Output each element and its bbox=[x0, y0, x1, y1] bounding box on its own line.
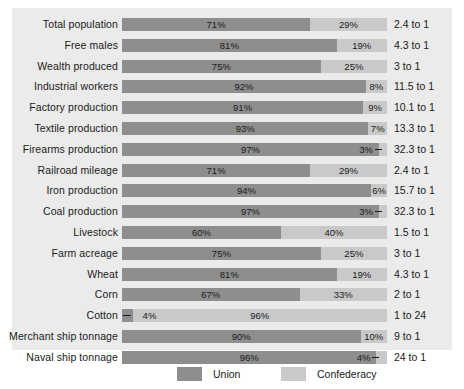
ratio-label: 2.4 to 1 bbox=[394, 14, 429, 35]
value-label-union: 81% bbox=[122, 268, 337, 281]
row-label: Firearms production bbox=[0, 139, 118, 160]
legend-swatch-union bbox=[177, 367, 202, 381]
row-label: Railroad mileage bbox=[0, 160, 118, 181]
ratio-label: 32.3 to 1 bbox=[394, 201, 435, 222]
chart-row: Coal production97%3%32.3 to 1 bbox=[0, 201, 464, 222]
chart-row: Iron production94%6%15.7 to 1 bbox=[0, 180, 464, 201]
ratio-label: 13.3 to 1 bbox=[394, 118, 435, 139]
ratio-label: 3 to 1 bbox=[394, 56, 420, 77]
leader-line bbox=[123, 315, 131, 316]
value-label-confederacy: 8% bbox=[366, 80, 387, 93]
chart-row: Railroad mileage71%29%2.4 to 1 bbox=[0, 160, 464, 181]
ratio-label: 9 to 1 bbox=[394, 326, 420, 347]
value-label-union: 97% bbox=[122, 143, 379, 156]
value-label-confederacy: 19% bbox=[337, 39, 387, 52]
value-label-confederacy: 33% bbox=[300, 288, 387, 301]
legend-item-union: Union bbox=[177, 363, 240, 385]
row-label: Livestock bbox=[0, 222, 118, 243]
value-label-confederacy: 10% bbox=[361, 330, 388, 343]
ratio-label: 32.3 to 1 bbox=[394, 139, 435, 160]
value-label-confederacy: 4% bbox=[340, 351, 370, 364]
civil-war-resources-chart: Total population71%29%2.4 to 1Free males… bbox=[0, 0, 464, 389]
value-label-confederacy: 19% bbox=[337, 268, 387, 281]
value-label-union: 96% bbox=[122, 351, 376, 364]
chart-row: Corn67%33%2 to 1 bbox=[0, 284, 464, 305]
chart-row: Farm acreage75%25%3 to 1 bbox=[0, 243, 464, 264]
ratio-label: 2 to 1 bbox=[394, 284, 420, 305]
value-label-union: 71% bbox=[122, 18, 310, 31]
row-label: Industrial workers bbox=[0, 76, 118, 97]
ratio-label: 4.3 to 1 bbox=[394, 264, 429, 285]
legend-label-confederacy: Confederacy bbox=[317, 368, 377, 380]
row-label: Wealth produced bbox=[0, 56, 118, 77]
chart-row: Firearms production97%3%32.3 to 1 bbox=[0, 139, 464, 160]
value-label-union: 91% bbox=[122, 101, 363, 114]
legend-item-confederacy: Confederacy bbox=[281, 363, 377, 385]
row-label: Merchant ship tonnage bbox=[0, 326, 118, 347]
leader-line bbox=[375, 211, 382, 212]
value-label-confederacy: 25% bbox=[321, 60, 387, 73]
value-label-union: 75% bbox=[122, 247, 321, 260]
value-label-confederacy: 3% bbox=[343, 143, 373, 156]
legend-swatch-confederacy bbox=[281, 367, 306, 381]
ratio-label: 3 to 1 bbox=[394, 243, 420, 264]
chart-row: Merchant ship tonnage90%10%9 to 1 bbox=[0, 326, 464, 347]
value-label-union: 81% bbox=[122, 39, 337, 52]
chart-row: Factory production91%9%10.1 to 1 bbox=[0, 97, 464, 118]
chart-row: Total population71%29%2.4 to 1 bbox=[0, 14, 464, 35]
row-label: Total population bbox=[0, 14, 118, 35]
chart-row: Livestock60%40%1.5 to 1 bbox=[0, 222, 464, 243]
value-label-confederacy: 6% bbox=[371, 184, 387, 197]
row-label: Wheat bbox=[0, 264, 118, 285]
value-label-union: 90% bbox=[122, 330, 361, 343]
chart-row: Wealth produced75%25%3 to 1 bbox=[0, 56, 464, 77]
ratio-label: 10.1 to 1 bbox=[394, 97, 435, 118]
legend-label-union: Union bbox=[213, 368, 240, 380]
ratio-label: 15.7 to 1 bbox=[394, 180, 435, 201]
value-label-union: 67% bbox=[122, 288, 300, 301]
value-label-confederacy: 40% bbox=[281, 226, 387, 239]
value-label-union: 97% bbox=[122, 205, 379, 218]
row-label: Farm acreage bbox=[0, 243, 118, 264]
value-label-confederacy: 9% bbox=[363, 101, 387, 114]
row-label: Cotton bbox=[0, 305, 118, 326]
chart-row: Free males81%19%4.3 to 1 bbox=[0, 35, 464, 56]
chart-row: Wheat81%19%4.3 to 1 bbox=[0, 264, 464, 285]
ratio-label: 4.3 to 1 bbox=[394, 35, 429, 56]
chart-legend: Union Confederacy bbox=[0, 363, 464, 385]
row-label: Coal production bbox=[0, 201, 118, 222]
ratio-label: 2.4 to 1 bbox=[394, 160, 429, 181]
ratio-label: 11.5 to 1 bbox=[394, 76, 434, 97]
leader-line bbox=[372, 357, 379, 358]
chart-row: Textile production93%7%13.3 to 1 bbox=[0, 118, 464, 139]
value-label-union: 71% bbox=[122, 164, 310, 177]
row-label: Free males bbox=[0, 35, 118, 56]
row-label: Corn bbox=[0, 284, 118, 305]
value-label-union: 93% bbox=[122, 122, 368, 135]
bar-rows-container: Total population71%29%2.4 to 1Free males… bbox=[0, 0, 464, 389]
value-label-confederacy: 96% bbox=[133, 309, 387, 322]
ratio-label: 1.5 to 1 bbox=[394, 222, 429, 243]
chart-row: Industrial workers92%8%11.5 to 1 bbox=[0, 76, 464, 97]
row-label: Factory production bbox=[0, 97, 118, 118]
value-label-confederacy: 7% bbox=[368, 122, 387, 135]
value-label-confederacy: 3% bbox=[343, 205, 373, 218]
value-label-confederacy: 25% bbox=[321, 247, 387, 260]
ratio-label: 1 to 24 bbox=[394, 305, 426, 326]
value-label-union: 60% bbox=[122, 226, 281, 239]
row-label: Iron production bbox=[0, 180, 118, 201]
value-label-union: 94% bbox=[122, 184, 371, 197]
value-label-confederacy: 29% bbox=[310, 164, 387, 177]
leader-line bbox=[375, 149, 382, 150]
row-label: Textile production bbox=[0, 118, 118, 139]
chart-row: Cotton4%96%1 to 24 bbox=[0, 305, 464, 326]
value-label-union: 75% bbox=[122, 60, 321, 73]
value-label-union: 92% bbox=[122, 80, 366, 93]
value-label-confederacy: 29% bbox=[310, 18, 387, 31]
